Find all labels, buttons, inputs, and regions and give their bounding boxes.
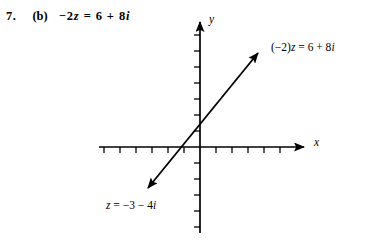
upper-label-rest: = 6 + 8 bbox=[295, 41, 331, 53]
vector-label-lower: z = −3 − 4i bbox=[106, 199, 156, 211]
cartesian-plot bbox=[0, 0, 379, 241]
worksheet-page: 7.(b)−2z = 6 + 8i bbox=[0, 0, 379, 241]
vector-label-upper: (−2)z = 6 + 8i bbox=[271, 41, 335, 53]
x-axis-label: x bbox=[314, 136, 319, 148]
x-axis-ticks bbox=[104, 147, 280, 153]
y-axis-label: y bbox=[209, 13, 214, 25]
lower-label-rest: = −3 − 4 bbox=[110, 199, 152, 211]
vector-line bbox=[148, 53, 258, 188]
lower-label-imaginary-unit: i bbox=[153, 199, 156, 211]
upper-label-imaginary-unit: i bbox=[331, 41, 334, 53]
upper-label-prefix: (−2) bbox=[271, 41, 291, 53]
